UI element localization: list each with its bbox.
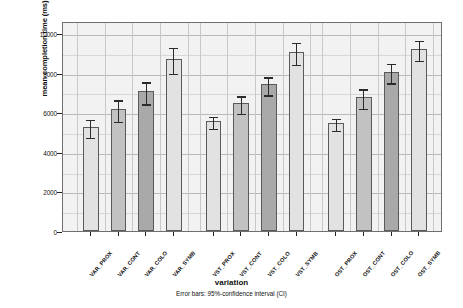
error-bar-cap	[209, 129, 218, 130]
error-bar-cap	[209, 117, 218, 118]
x-tick-label: VST_SYMB	[294, 250, 319, 278]
x-tick-label: OST_CONT	[361, 250, 386, 278]
y-tick-label: 8000	[43, 70, 57, 77]
error-bar-cap	[86, 120, 95, 121]
x-tick-label: VST_PROX	[211, 250, 236, 278]
error-bar-cap	[169, 74, 178, 75]
error-bar-line	[296, 43, 297, 65]
bar[interactable]	[411, 49, 426, 231]
x-tick-label: VAR_CONT	[116, 250, 141, 278]
error-bar-line	[118, 100, 119, 122]
bar[interactable]	[261, 84, 276, 231]
y-tick-label: 4000	[43, 149, 57, 156]
error-bar-line	[146, 82, 147, 104]
error-bar-cap	[264, 77, 273, 78]
bar-series	[63, 23, 441, 231]
y-tick-label: 2000	[43, 189, 57, 196]
error-bar-cap	[237, 96, 246, 97]
error-bar-cap	[86, 138, 95, 139]
error-bar-cap	[169, 48, 178, 49]
error-bar-cap	[292, 43, 301, 44]
bar[interactable]	[83, 127, 98, 231]
error-bar-line	[336, 119, 337, 131]
bar[interactable]	[356, 97, 371, 231]
x-tick-label: VAR_PROX	[88, 250, 113, 278]
x-tick-label: VAR_SYMB	[171, 250, 196, 278]
bar[interactable]	[138, 91, 153, 231]
error-bar-cap	[387, 64, 396, 65]
bar[interactable]	[328, 123, 343, 231]
chart-caption: Error bars: 95%-confidence interval (CI)	[0, 290, 463, 297]
error-bar-cap	[359, 89, 368, 90]
error-bar-cap	[387, 83, 396, 84]
error-bar-line	[268, 77, 269, 95]
x-tick-label: OST_COLO	[389, 250, 414, 278]
error-bar-cap	[415, 41, 424, 42]
error-bar-line	[241, 96, 242, 114]
x-tick-label: OST_SYMB	[417, 250, 442, 278]
bar[interactable]	[111, 109, 126, 231]
error-bar-cap	[114, 100, 123, 101]
error-bar-cap	[114, 122, 123, 123]
y-tick-label: 10000	[40, 30, 57, 37]
error-bar-cap	[415, 61, 424, 62]
error-bar-cap	[292, 65, 301, 66]
error-bar-cap	[332, 119, 341, 120]
bar[interactable]	[384, 72, 399, 231]
x-tick-label: OST_PROX	[334, 250, 359, 278]
x-tick-label: VST_CONT	[239, 250, 264, 278]
error-bar-line	[419, 41, 420, 61]
error-bar-line	[391, 64, 392, 84]
error-bar-line	[363, 89, 364, 109]
error-bar-cap	[264, 95, 273, 96]
error-bar-line	[90, 120, 91, 138]
bar[interactable]	[166, 59, 181, 231]
error-bar-cap	[359, 109, 368, 110]
x-axis-title: variation	[0, 278, 463, 287]
x-axis-category-labels: VAR_PROXVAR_CONTVAR_COLOVAR_SYMBVST_PROX…	[0, 232, 463, 278]
bar[interactable]	[289, 52, 304, 231]
error-bar-cap	[237, 114, 246, 115]
error-bar-cap	[332, 131, 341, 132]
error-bar-line	[173, 48, 174, 74]
x-tick-label: VST_COLO	[266, 250, 291, 278]
bar[interactable]	[233, 103, 248, 231]
error-bar-cap	[142, 104, 151, 105]
x-tick-label: VAR_COLO	[144, 250, 169, 278]
plot-area	[62, 22, 442, 232]
error-bar-line	[213, 117, 214, 129]
y-tick-label: 6000	[43, 110, 57, 117]
bar-chart: mean completion time (ms) 02000400060008…	[0, 0, 463, 308]
error-bar-cap	[142, 82, 151, 83]
bar[interactable]	[206, 121, 221, 231]
